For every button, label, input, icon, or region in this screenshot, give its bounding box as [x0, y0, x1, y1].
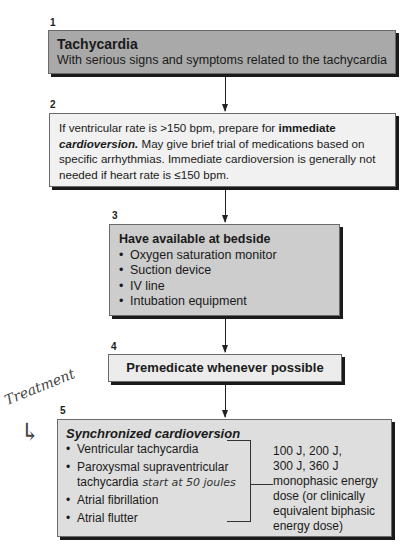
arrow-1-to-2 [225, 77, 226, 111]
step-3-box: Have available at bedside Oxygen saturat… [109, 224, 340, 316]
step-2-text-bold: immediate [278, 121, 335, 134]
arrow-2-to-3 [225, 190, 226, 222]
step-3-number: 3 [112, 210, 118, 221]
step-2-text-pre: If ventricular rate is >150 bpm, prepare… [59, 121, 278, 134]
list-item: IV line [119, 279, 330, 295]
step-5-title: Synchronized cardioversion [66, 425, 383, 442]
list-item: Suction device [119, 263, 330, 279]
arrow-4-to-5 [225, 385, 226, 417]
bracket [227, 440, 251, 522]
step-3-list: Oxygen saturation monitor Suction device… [119, 248, 330, 310]
step-2-number: 2 [50, 99, 56, 110]
step-1-title: Tachycardia [57, 36, 387, 52]
step-3-title: Have available at bedside [119, 232, 330, 248]
step-5-box: Synchronized cardioversion Ventricular t… [57, 419, 392, 537]
step-4-number: 4 [111, 341, 117, 352]
step-4-box: Premedicate whenever possible [108, 354, 342, 382]
step-2-box: If ventricular rate is >150 bpm, prepare… [49, 113, 396, 187]
step-1-number: 1 [50, 17, 56, 28]
list-item: Intubation equipment [119, 294, 330, 310]
handwritten-treatment-note: Treatment [2, 365, 77, 408]
arrow-3-to-4 [225, 319, 226, 352]
bracket-connector [251, 484, 273, 485]
step-1-subtitle: With serious signs and symptoms related … [57, 52, 387, 68]
step-5-number: 5 [60, 405, 66, 416]
handwritten-arrow-icon: ↳ [20, 418, 40, 446]
step-2-text-bold-italic: cardioversion. [59, 137, 138, 150]
handwritten-dose-note: start at 50 joules [142, 476, 235, 489]
energy-dose-text: 100 J, 200 J, 300 J, 360 J monophasic en… [273, 444, 385, 534]
step-1-box: Tachycardia With serious signs and sympt… [48, 30, 396, 74]
step-4-title: Premedicate whenever possible [126, 360, 323, 375]
list-item: Oxygen saturation monitor [119, 248, 330, 264]
